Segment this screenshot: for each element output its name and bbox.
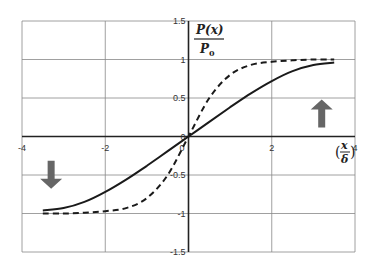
svg-text:1: 1 xyxy=(180,55,185,65)
svg-text:-0.5: -0.5 xyxy=(170,170,186,180)
svg-text:-1: -1 xyxy=(177,209,185,219)
svg-text:-2: -2 xyxy=(101,143,109,153)
svg-text:0: 0 xyxy=(209,48,215,58)
svg-text:0.5: 0.5 xyxy=(173,93,186,103)
svg-text:-4: -4 xyxy=(18,143,26,153)
chart: -4-2241.510.50-0.5-1-1.50 P(x) P 0 ( x δ… xyxy=(0,0,373,269)
svg-text:x: x xyxy=(340,139,348,152)
svg-text:-1.5: -1.5 xyxy=(170,247,186,257)
svg-text:δ: δ xyxy=(340,153,348,166)
svg-text:(: ( xyxy=(335,144,340,160)
svg-text:1.5: 1.5 xyxy=(173,16,186,26)
y-axis-label: P(x) P 0 xyxy=(194,23,224,58)
x-axis-label: ( x δ ) xyxy=(335,139,355,166)
svg-text:2: 2 xyxy=(269,143,274,153)
direction-arrows xyxy=(40,100,333,189)
svg-text:): ) xyxy=(350,144,355,160)
svg-text:P(x): P(x) xyxy=(195,23,224,37)
arrow-up-icon xyxy=(311,100,333,128)
